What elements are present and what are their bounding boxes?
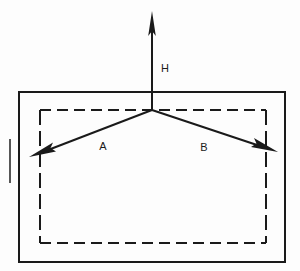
vector-a-label: A [99, 140, 107, 152]
vector-b-label: B [200, 141, 207, 153]
vector-diagram-svg: H A B [0, 0, 300, 271]
vector-h-label: H [161, 62, 169, 74]
diagram-canvas: H A B [0, 0, 300, 271]
vector-a-arrowhead [29, 143, 56, 158]
vector-b-arrowhead [251, 138, 278, 152]
outer-solid-rectangle [19, 92, 285, 262]
